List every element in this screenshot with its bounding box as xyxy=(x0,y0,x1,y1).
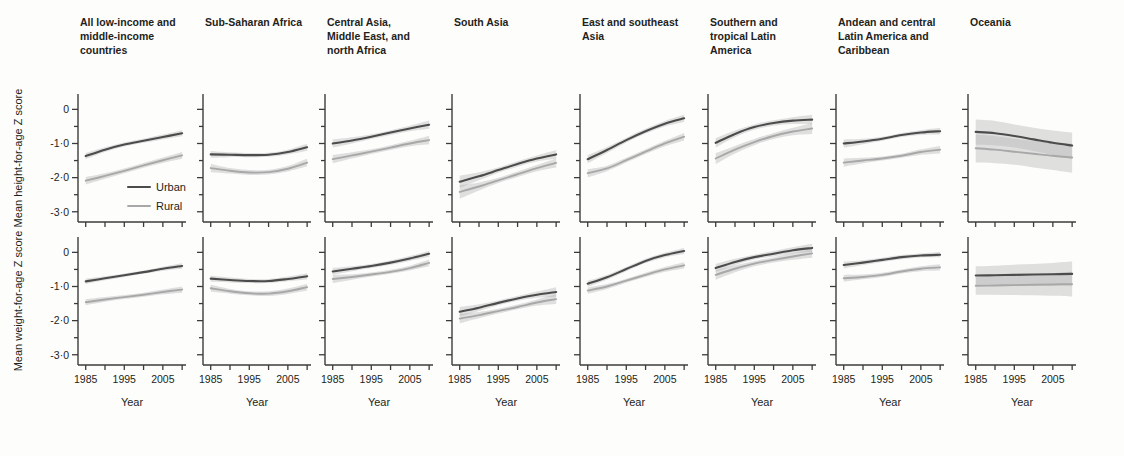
x-tick-label: 1985 xyxy=(74,373,98,385)
x-tick-label: 1995 xyxy=(113,373,137,385)
series-line-rural xyxy=(86,290,182,303)
confidence-band-rural xyxy=(844,146,940,167)
panel-hfa-5: East and southeastAsia xyxy=(574,16,688,227)
panel-wfa-3: 198519952005Year xyxy=(319,237,433,408)
confidence-band-urban xyxy=(333,251,429,275)
chart-row-weight: Mean weight-for-age Z score0-1·0-2·0-3·0… xyxy=(12,231,1076,408)
panel-wfa-5: 198519952005Year xyxy=(574,237,688,408)
legend-label-rural: Rural xyxy=(156,200,182,212)
panel-wfa-2: 198519952005Year xyxy=(197,237,311,408)
panel-title: tropical Latin xyxy=(710,30,776,42)
panel-hfa-3: Central Asia,Middle East, andnorth Afric… xyxy=(319,16,433,227)
series-line-rural xyxy=(844,267,940,278)
x-tick-label: 1995 xyxy=(238,373,262,385)
x-tick-label: 1985 xyxy=(704,373,728,385)
x-axis-label: Year xyxy=(1011,396,1034,408)
panel-wfa-1: 198519952005Year xyxy=(72,237,186,408)
panel-hfa-2: Sub-Saharan Africa xyxy=(197,16,311,227)
x-tick-label: 1995 xyxy=(743,373,767,385)
figure-panel-grid: Mean height-for-age Z score0-1·0-2·0-3·0… xyxy=(0,0,1124,456)
y-tick-label: -3·0 xyxy=(50,349,69,361)
x-tick-label: 1985 xyxy=(832,373,856,385)
x-tick-label: 2005 xyxy=(781,373,805,385)
x-axis-label: Year xyxy=(623,396,646,408)
x-axis-label: Year xyxy=(121,396,144,408)
series-line-rural xyxy=(86,155,182,180)
x-tick-label: 1995 xyxy=(1003,373,1027,385)
panel-title: Andean and central xyxy=(838,16,936,28)
panel-title: countries xyxy=(80,44,127,56)
x-tick-label: 1985 xyxy=(199,373,223,385)
panel-hfa-8: Oceania xyxy=(962,16,1076,227)
panel-title: Asia xyxy=(582,30,604,42)
y-axis-label-height: Mean height-for-age Z score xyxy=(12,89,24,228)
panel-title: Central Asia, xyxy=(327,16,391,28)
y-tick-label: 0 xyxy=(63,103,69,115)
panel-wfa-6: 198519952005Year xyxy=(702,237,816,408)
x-tick-label: 2005 xyxy=(1041,373,1065,385)
panel-title: Latin America and xyxy=(838,30,929,42)
multi-panel-line-chart: Mean height-for-age Z score0-1·0-2·0-3·0… xyxy=(0,0,1124,456)
panel-hfa-7: Andean and centralLatin America andCarib… xyxy=(830,16,944,227)
y-tick-label: -1·0 xyxy=(50,137,69,149)
series-line-urban xyxy=(86,266,182,281)
panel-hfa-6: Southern andtropical LatinAmerica xyxy=(702,16,816,227)
x-tick-label: 1995 xyxy=(487,373,511,385)
confidence-band-urban xyxy=(86,130,182,159)
panel-wfa-7: 198519952005Year xyxy=(830,237,944,408)
x-tick-label: 1995 xyxy=(871,373,895,385)
y-tick-label: -3·0 xyxy=(50,206,69,218)
panel-title: Oceania xyxy=(970,16,1011,28)
panel-title: Middle East, and xyxy=(327,30,410,42)
panel-title: north Africa xyxy=(327,44,386,56)
panel-title: Caribbean xyxy=(838,44,889,56)
panel-title: South Asia xyxy=(454,16,509,28)
panel-title: Sub-Saharan Africa xyxy=(205,16,302,28)
x-tick-label: 2005 xyxy=(151,373,175,385)
y-axis-label-weight: Mean weight-for-age Z score xyxy=(12,231,24,372)
y-tick-label: -2·0 xyxy=(50,314,69,326)
x-tick-label: 2005 xyxy=(398,373,422,385)
confidence-band-rural xyxy=(716,123,812,164)
x-tick-label: 1995 xyxy=(360,373,384,385)
x-tick-label: 1985 xyxy=(576,373,600,385)
x-tick-label: 1985 xyxy=(964,373,988,385)
x-tick-label: 2005 xyxy=(909,373,933,385)
panel-title: All low-income and xyxy=(80,16,176,28)
x-axis-label: Year xyxy=(879,396,902,408)
y-tick-label: -1·0 xyxy=(50,280,69,292)
y-tick-label: 0 xyxy=(63,246,69,258)
panel-wfa-4: 198519952005Year xyxy=(446,237,560,408)
panel-hfa-1: All low-income andmiddle-incomecountries xyxy=(72,16,186,227)
x-axis-label: Year xyxy=(751,396,774,408)
panel-hfa-4: South Asia xyxy=(446,16,560,227)
y-tick-label: -2·0 xyxy=(50,171,69,183)
legend-label-urban: Urban xyxy=(156,181,186,193)
x-tick-label: 2005 xyxy=(653,373,677,385)
panel-title: middle-income xyxy=(80,30,154,42)
panel-wfa-8: 198519952005Year xyxy=(962,237,1076,408)
x-axis-label: Year xyxy=(246,396,269,408)
x-tick-label: 1985 xyxy=(321,373,345,385)
chart-row-height: Mean height-for-age Z score0-1·0-2·0-3·0… xyxy=(12,16,1076,227)
x-tick-label: 2005 xyxy=(276,373,300,385)
x-tick-label: 1995 xyxy=(615,373,639,385)
x-tick-label: 1985 xyxy=(448,373,472,385)
panel-title: America xyxy=(710,44,752,56)
series-line-urban xyxy=(844,131,940,143)
legend: UrbanRural xyxy=(128,181,186,212)
panel-title: Southern and xyxy=(710,16,778,28)
panel-title: East and southeast xyxy=(582,16,679,28)
x-axis-label: Year xyxy=(495,396,518,408)
x-tick-label: 2005 xyxy=(525,373,549,385)
x-axis-label: Year xyxy=(368,396,391,408)
